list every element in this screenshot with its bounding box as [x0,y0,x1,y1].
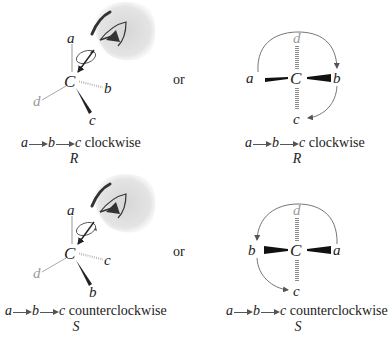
label-c: c [293,111,300,127]
arrow-icon [260,307,280,317]
arrow-icon [28,139,48,149]
caption-top-right: abc clockwise [245,135,365,151]
caption-var-b: b [48,135,55,150]
label-center-c: C [64,72,76,91]
hashed-bond-d [295,217,299,241]
label-b: b [248,242,256,258]
s-perspective-diagram: a C c b d [0,172,190,302]
hashed-bond-c [295,88,299,110]
rotation-arc-arrow-2 [257,258,288,290]
caption-var-b: b [272,135,279,150]
wedge-bond-b [76,260,92,286]
hashed-bond-b [79,81,103,88]
wedge-bond-c [76,88,92,114]
label-d: d [293,30,301,46]
label-b: b [333,70,341,86]
hashed-bond-c [79,253,103,260]
caption-var-c: c [75,135,81,150]
label-c: c [104,252,111,268]
caption-var-a: a [5,303,12,318]
config-label-bottom-left: S [66,319,86,335]
or-separator-top: or [173,72,185,88]
label-c: c [293,283,300,299]
label-a: a [333,242,341,258]
arrow-icon [233,307,253,317]
caption-top-left: abc clockwise [21,135,141,151]
r-perspective-diagram: a C b c d [0,0,190,130]
wedge-bond-a [307,246,331,254]
arrow-icon [12,307,32,317]
arrow-icon [39,307,59,317]
bond-d [42,86,66,100]
caption-bottom-right: abc counterclockwise [226,303,388,319]
label-b: b [89,284,97,300]
bond-d [42,258,66,272]
label-d: d [33,265,41,281]
config-label-bottom-right: S [288,319,308,335]
s-projection-diagram: b C a d c [240,192,370,302]
caption-direction: clockwise [85,135,141,150]
r-projection-diagram: a C b d c [240,20,370,130]
arrow-icon [55,139,75,149]
wedge-bond-b [264,246,288,254]
label-b: b [104,80,112,96]
hashed-bond-c [295,260,299,282]
label-d: d [293,202,301,218]
label-center-c: C [290,69,302,88]
hashed-bond-d [295,45,299,69]
rotation-arc-arrow-2 [308,86,337,118]
label-center-c: C [290,241,302,260]
label-a: a [67,202,75,218]
caption-var-b: b [253,303,260,318]
label-d: d [33,93,41,109]
caption-direction: clockwise [309,135,365,150]
wedge-bond-a [265,77,288,82]
caption-direction: counterclockwise [69,303,167,318]
label-a: a [246,70,254,86]
caption-var-b: b [32,303,39,318]
caption-var-c: c [299,135,305,150]
arrow-icon [279,139,299,149]
label-center-c: C [64,244,76,263]
caption-var-a: a [21,135,28,150]
label-c: c [89,112,96,128]
label-a: a [67,30,75,46]
arrow-icon [252,139,272,149]
caption-var-c: c [280,303,286,318]
or-separator-bottom: or [173,244,185,260]
caption-bottom-left: abc counterclockwise [5,303,167,319]
caption-direction: counterclockwise [290,303,388,318]
caption-var-a: a [226,303,233,318]
config-label-top-left: R [64,151,84,167]
config-label-top-right: R [287,151,307,167]
wedge-bond-b [307,74,331,82]
caption-var-c: c [59,303,65,318]
caption-var-a: a [245,135,252,150]
